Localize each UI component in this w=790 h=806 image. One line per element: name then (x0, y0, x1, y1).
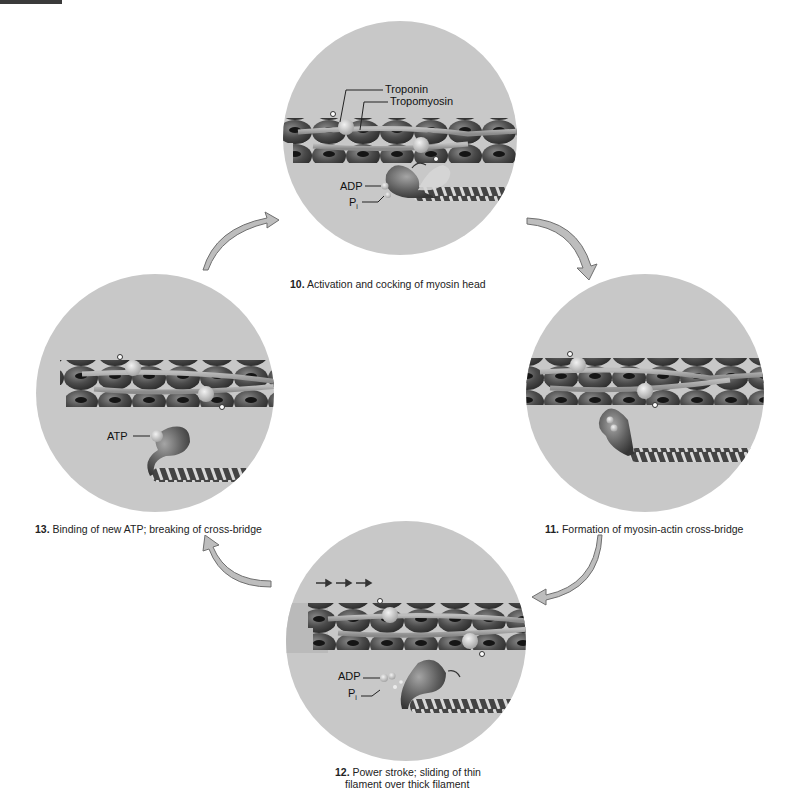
label-pi: Pi (348, 687, 357, 701)
step-13-illustration (30, 270, 290, 520)
troponin-complex (125, 360, 141, 376)
cycle-arrow-12-to-13 (195, 535, 275, 605)
label-atp: ATP (107, 430, 128, 442)
label-tropomyosin: Tropomyosin (390, 95, 453, 107)
step-10-illustration (278, 0, 523, 280)
label-adp: ADP (338, 670, 361, 682)
actin-filament-bottom (313, 625, 573, 650)
cycle-arrow-10-to-11 (525, 210, 605, 285)
troponin-complex (570, 357, 586, 373)
panel-step-13: ATP 13. Binding of new ATP; breaking of … (30, 270, 290, 540)
caption-step-13: 13. Binding of new ATP; breaking of cros… (35, 523, 262, 535)
step-11-illustration (510, 270, 790, 520)
caption-step-12: 12. Power stroke; sliding of thin filame… (335, 766, 481, 790)
thick-filament (630, 448, 780, 462)
atp-molecule (151, 430, 163, 442)
cycle-arrow-11-to-12 (530, 533, 605, 608)
actin-filament-bottom (520, 380, 790, 405)
troponin-complex (382, 607, 398, 623)
step-12-illustration (268, 513, 538, 773)
label-pi: Pi (349, 196, 358, 210)
panel-step-11: 11. Formation of myosin-actin cross-brid… (510, 270, 790, 540)
caption-step-10: 10. Activation and cocking of myosin hea… (290, 278, 486, 290)
corner-bar (0, 0, 62, 4)
label-troponin: Troponin (385, 83, 428, 95)
thick-filament (152, 468, 302, 482)
label-adp: ADP (340, 180, 363, 192)
cycle-arrow-13-to-10 (195, 200, 285, 280)
actin-filament-bottom (66, 382, 326, 407)
panel-step-10: Troponin Tropomyosin ADP Pi 10. Activati… (278, 0, 523, 300)
adp-released (380, 674, 388, 682)
panel-step-12: ADP Pi 12. Power stroke; sliding of thin… (268, 513, 538, 806)
thick-filament (410, 699, 540, 713)
